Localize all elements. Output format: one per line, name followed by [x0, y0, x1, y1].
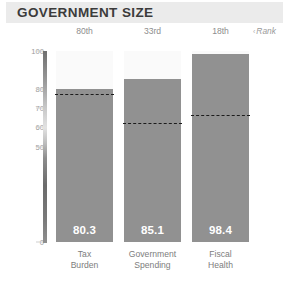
- bar-value-government-spending: 85.1: [124, 224, 181, 236]
- reference-line-tax-burden: [55, 94, 114, 95]
- bar-column-government-spending[interactable]: 85.1: [124, 51, 181, 242]
- category-label-line: Tax: [56, 249, 113, 260]
- bar-tax-burden[interactable]: [56, 89, 113, 242]
- bar-column-fiscal-health[interactable]: 98.4: [192, 51, 249, 242]
- reference-line-fiscal-health: [191, 115, 250, 116]
- bar-fiscal-health[interactable]: [192, 54, 249, 242]
- category-label-line: Government: [124, 249, 181, 260]
- category-label-line: Burden: [56, 260, 113, 271]
- y-axis-spine: [43, 51, 47, 243]
- category-label-line: Health: [192, 260, 249, 271]
- category-label-government-spending: GovernmentSpending: [124, 249, 181, 270]
- bar-column-tax-burden[interactable]: 80.3: [56, 51, 113, 242]
- category-label-line: Spending: [124, 260, 181, 271]
- y-axis: 050607080100: [12, 0, 44, 284]
- category-label-fiscal-health: FiscalHealth: [192, 249, 249, 270]
- reference-line-government-spending: [123, 123, 182, 124]
- category-label-tax-burden: TaxBurden: [56, 249, 113, 270]
- bar-value-fiscal-health: 98.4: [192, 224, 249, 236]
- bar-value-tax-burden: 80.3: [56, 224, 113, 236]
- bar-chart: 050607080100 80.3TaxBurden85.1Government…: [0, 0, 289, 284]
- bar-government-spending[interactable]: [124, 79, 181, 242]
- category-label-line: Fiscal: [192, 249, 249, 260]
